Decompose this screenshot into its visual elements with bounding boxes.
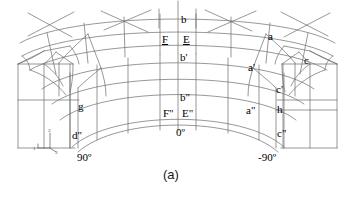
label-c-prime: c' [276,84,283,95]
label-d-double-prime: d" [72,130,82,141]
label-angle-negative-90: -90º [258,152,276,163]
figure-caption: (a) [163,167,179,182]
axis-label-2: 2 [48,128,51,133]
label-g: g [78,101,84,112]
top-band-radial-lines [47,14,308,74]
label-c: c [304,55,309,66]
coordinate-axis-triad [38,133,56,152]
label-a-prime: a' [248,62,255,73]
left-wing-vertical-lines [18,64,70,148]
label-E: E [183,34,190,45]
label-E-double-prime: E" [182,108,193,119]
label-angle-positive-90: 90º [77,152,91,163]
label-b-prime: b' [180,52,187,63]
label-b: b [181,14,187,25]
crown-ray-segments [28,9,330,37]
left-facet-gd [59,34,106,148]
label-F: F [162,34,168,45]
label-h: h [277,104,283,115]
label-a: a [268,31,273,42]
label-angle-zero: 0º [176,127,185,138]
label-a-double-prime: a" [246,105,255,116]
axis-label-1: 1 [33,146,36,151]
label-b-double-prime: b" [180,92,190,103]
axis-label-3: 3 [55,150,58,155]
figure-container: b F E b' a a' c c' b" F" E" 0º a" h c" g… [0,0,355,199]
top-outer-arcs [20,19,335,70]
label-c-double-prime: c" [277,128,286,139]
label-F-double-prime: F" [163,108,174,119]
